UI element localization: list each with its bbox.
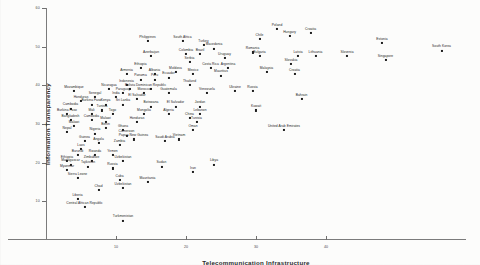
data-point-label: Albania — [149, 68, 160, 71]
data-point[interactable] — [440, 49, 442, 51]
data-point[interactable] — [90, 104, 92, 106]
data-point[interactable] — [111, 154, 113, 156]
data-point-label: Azerbaijan — [143, 51, 159, 54]
data-point-label: South Africa — [173, 35, 191, 38]
data-point[interactable] — [90, 119, 92, 121]
data-point[interactable] — [146, 40, 148, 42]
data-point[interactable] — [73, 125, 75, 127]
data-point[interactable] — [310, 32, 312, 34]
data-point-label: Thailand — [183, 80, 196, 83]
data-point[interactable] — [111, 113, 113, 115]
data-point[interactable] — [258, 55, 260, 57]
data-point-label: Kenya — [101, 99, 111, 102]
data-point[interactable] — [290, 63, 292, 65]
data-point[interactable] — [289, 35, 291, 37]
data-point[interactable] — [94, 133, 96, 135]
data-point[interactable] — [188, 84, 190, 86]
data-point[interactable] — [122, 220, 124, 222]
data-point-label: Rwanda — [89, 149, 101, 152]
data-point[interactable] — [66, 131, 68, 133]
data-point[interactable] — [293, 73, 295, 75]
data-point[interactable] — [220, 75, 222, 77]
data-point[interactable] — [139, 78, 141, 80]
data-point[interactable] — [181, 40, 183, 42]
x-tick-2 — [256, 236, 257, 240]
data-point-label: Sudan — [157, 161, 167, 164]
data-point-label: Ethiopia — [134, 62, 146, 65]
data-point[interactable] — [199, 53, 201, 55]
data-point[interactable] — [346, 55, 348, 57]
data-point[interactable] — [381, 42, 383, 44]
data-point[interactable] — [108, 88, 110, 90]
data-point[interactable] — [164, 140, 166, 142]
x-tick-label-0: 10 — [114, 245, 118, 249]
data-point[interactable] — [255, 109, 257, 111]
data-point[interactable] — [384, 59, 386, 61]
data-point[interactable] — [167, 77, 169, 79]
data-point[interactable] — [97, 142, 99, 144]
data-point[interactable] — [251, 90, 253, 92]
data-point[interactable] — [150, 55, 152, 57]
data-point[interactable] — [76, 154, 78, 156]
data-point[interactable] — [160, 165, 162, 167]
data-point[interactable] — [101, 109, 103, 111]
data-point[interactable] — [174, 106, 176, 108]
data-point[interactable] — [283, 129, 285, 131]
data-point[interactable] — [76, 177, 78, 179]
data-point[interactable] — [104, 127, 106, 129]
data-point[interactable] — [122, 187, 124, 189]
data-point-label: Yemen — [107, 149, 117, 152]
data-point-label: Tunisia — [191, 117, 202, 120]
data-point-label: Chile — [256, 33, 264, 36]
data-point-label: Slovenia — [340, 51, 353, 54]
data-point[interactable] — [209, 67, 211, 69]
data-point[interactable] — [258, 38, 260, 40]
data-point[interactable] — [136, 98, 138, 100]
data-point[interactable] — [300, 98, 302, 100]
data-point-label: Mauritius — [214, 70, 228, 73]
data-point[interactable] — [111, 167, 113, 169]
data-point[interactable] — [125, 73, 127, 75]
data-point[interactable] — [153, 78, 155, 80]
data-point-label: Morocco — [138, 88, 151, 91]
data-point[interactable] — [73, 90, 75, 92]
data-point[interactable] — [202, 44, 204, 46]
data-point[interactable] — [136, 121, 138, 123]
data-point[interactable] — [167, 113, 169, 115]
data-point-label: Nicaragua — [101, 84, 116, 87]
data-point[interactable] — [276, 28, 278, 30]
data-point[interactable] — [213, 164, 215, 166]
data-point[interactable] — [122, 104, 124, 106]
data-point-label: Malaysia — [260, 66, 273, 69]
data-point[interactable] — [146, 181, 148, 183]
data-point[interactable] — [223, 57, 225, 59]
data-point[interactable] — [178, 138, 180, 140]
data-point-label: Senegal — [89, 91, 101, 94]
data-point[interactable] — [234, 90, 236, 92]
data-point[interactable] — [192, 73, 194, 75]
data-point-label: Ukraine — [229, 86, 241, 89]
data-point[interactable] — [132, 138, 134, 140]
data-point[interactable] — [192, 171, 194, 173]
data-point[interactable] — [192, 129, 194, 131]
data-point[interactable] — [188, 61, 190, 63]
data-point[interactable] — [206, 92, 208, 94]
data-point[interactable] — [122, 160, 124, 162]
data-point[interactable] — [83, 206, 85, 208]
data-point[interactable] — [167, 92, 169, 94]
data-point[interactable] — [265, 71, 267, 73]
x-tick-label-2: 30 — [254, 245, 258, 249]
data-point[interactable] — [122, 92, 124, 94]
data-point[interactable] — [314, 55, 316, 57]
y-tick-label-3: 40 — [26, 83, 40, 87]
data-point-label: Libya — [210, 159, 218, 162]
data-point-label: Peru — [151, 74, 158, 77]
data-point-label: United Arab Emirates — [268, 124, 300, 127]
data-point[interactable] — [118, 144, 120, 146]
data-point[interactable] — [87, 165, 89, 167]
data-point-label: Croatia — [305, 28, 316, 31]
data-point[interactable] — [213, 48, 215, 50]
data-point[interactable] — [97, 189, 99, 191]
data-point[interactable] — [139, 67, 141, 69]
data-point-label: Poland — [272, 24, 283, 27]
